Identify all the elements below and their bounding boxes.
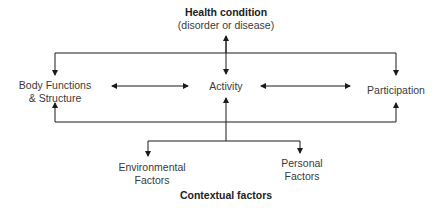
body-functions-line1: Body Functions (10, 79, 100, 92)
environmental-line1: Environmental (112, 161, 192, 174)
participation-node: Participation (360, 84, 432, 97)
health-condition-title: Health condition (176, 6, 276, 19)
environmental-factors-node: Environmental Factors (112, 161, 192, 187)
activity-node: Activity (196, 80, 256, 93)
environmental-line2: Factors (112, 174, 192, 187)
personal-line1: Personal (270, 157, 334, 170)
icf-diagram: Health condition (disorder or disease) B… (0, 0, 440, 208)
personal-factors-node: Personal Factors (270, 157, 334, 183)
health-condition-subtitle: (disorder or disease) (156, 19, 296, 32)
body-functions-node: Body Functions & Structure (10, 79, 100, 105)
contextual-factors-title: Contextual factors (166, 189, 286, 202)
personal-line2: Factors (270, 170, 334, 183)
body-functions-line2: & Structure (10, 92, 100, 105)
